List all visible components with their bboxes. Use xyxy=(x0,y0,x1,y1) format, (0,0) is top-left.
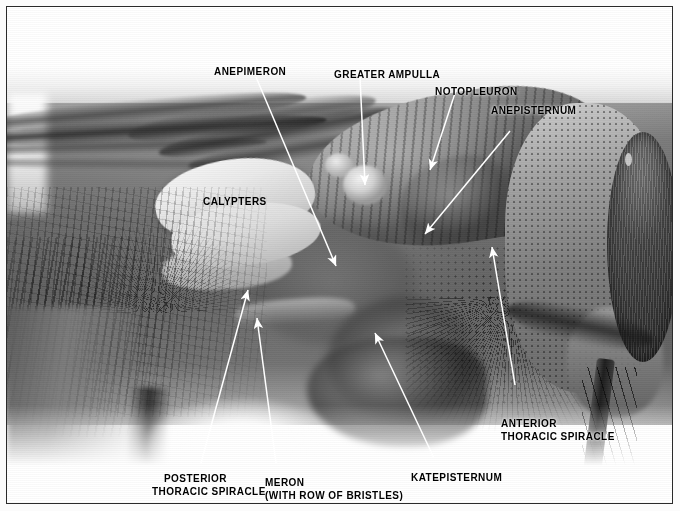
label-anterior-thoracic-spiracle-line2: THORACIC SPIRACLE xyxy=(501,431,615,444)
leader-katepisternum xyxy=(375,333,434,458)
leader-anepimeron xyxy=(256,77,336,266)
label-posterior-thoracic-spiracle-line2: THORACIC SPIRACLE xyxy=(152,486,266,499)
figure-plate: ANEPIMERON GREATER AMPULLA NOTOPLEURON A… xyxy=(0,0,680,511)
label-anepisternum: ANEPISTERNUM xyxy=(491,105,576,118)
label-meron-line1: MERON xyxy=(265,477,304,490)
leader-anterior-thoracic-spiracle xyxy=(492,247,515,385)
label-meron-line2: (WITH ROW OF BRISTLES) xyxy=(265,490,403,503)
leader-greater-ampulla xyxy=(360,77,365,185)
label-posterior-thoracic-spiracle-line1: POSTERIOR xyxy=(164,473,227,486)
plate-border: ANEPIMERON GREATER AMPULLA NOTOPLEURON A… xyxy=(6,6,673,504)
label-calypters: CALYPTERS xyxy=(203,196,267,209)
leader-posterior-thoracic-spiracle xyxy=(201,290,248,463)
label-greater-ampulla: GREATER AMPULLA xyxy=(334,69,440,82)
leader-meron xyxy=(257,318,276,463)
photomicrograph: ANEPIMERON GREATER AMPULLA NOTOPLEURON A… xyxy=(7,7,672,503)
label-notopleuron: NOTOPLEURON xyxy=(435,86,518,99)
label-anterior-thoracic-spiracle-line1: ANTERIOR xyxy=(501,418,557,431)
label-anepimeron: ANEPIMERON xyxy=(214,66,286,79)
label-katepisternum: KATEPISTERNUM xyxy=(411,472,502,485)
leader-notopleuron xyxy=(430,87,457,170)
